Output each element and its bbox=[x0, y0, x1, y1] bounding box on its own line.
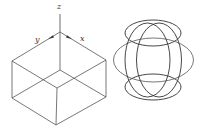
box-edge-bottom-back-right bbox=[60, 70, 106, 97]
left-tall-ellipse bbox=[125, 23, 170, 97]
box-edge-bottom-back-left bbox=[12, 70, 60, 98]
diagram-canvas bbox=[0, 0, 200, 133]
isometric-box bbox=[12, 32, 106, 125]
box-edge-top-front-left bbox=[12, 61, 57, 88]
y-axis-label: y bbox=[35, 36, 40, 44]
box-edge-bottom-front-left bbox=[12, 98, 56, 125]
x-axis-label: x bbox=[80, 35, 85, 43]
y-axis-arrow-icon bbox=[48, 35, 54, 39]
box-edge-top-front-right bbox=[57, 60, 106, 88]
ellipse-figure bbox=[114, 20, 194, 100]
box-edge-bottom-front-right bbox=[56, 97, 106, 125]
x-axis-arrow-icon bbox=[66, 35, 72, 39]
right-tall-ellipse bbox=[137, 23, 182, 97]
box-edge-vertical-front bbox=[56, 88, 57, 125]
z-axis-label: z bbox=[57, 3, 61, 11]
